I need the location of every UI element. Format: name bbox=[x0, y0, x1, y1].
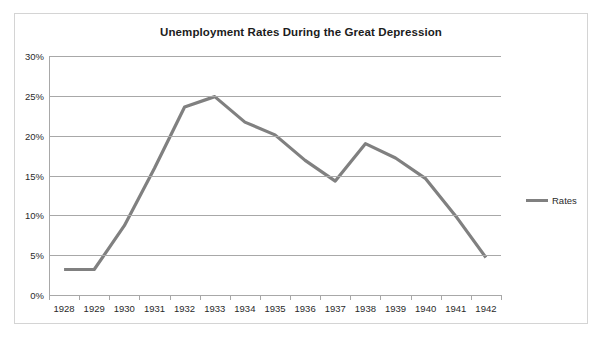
x-axis-tick-label: 1941 bbox=[445, 303, 466, 314]
x-axis-tick bbox=[501, 296, 502, 300]
x-axis-tick bbox=[441, 296, 442, 300]
y-axis-tick-label: 0% bbox=[15, 290, 49, 301]
x-axis-tick bbox=[411, 296, 412, 300]
legend-swatch-rates bbox=[526, 199, 548, 202]
y-axis-tick-label: 15% bbox=[15, 170, 49, 181]
x-axis-tick-label: 1934 bbox=[234, 303, 255, 314]
x-axis-tick bbox=[170, 296, 171, 300]
y-axis-tick-label: 25% bbox=[15, 90, 49, 101]
y-axis-tick-labels: 30%25%20%15%10%5%0% bbox=[15, 56, 49, 295]
x-axis-tick-label: 1936 bbox=[295, 303, 316, 314]
x-axis-tick bbox=[290, 296, 291, 300]
x-axis-tick bbox=[260, 296, 261, 300]
y-axis-tick-label: 20% bbox=[15, 130, 49, 141]
x-axis-tick-label: 1932 bbox=[174, 303, 195, 314]
x-axis-tick bbox=[109, 296, 110, 300]
x-axis-line bbox=[49, 295, 502, 296]
x-axis-tick-label: 1940 bbox=[415, 303, 436, 314]
x-axis-tick bbox=[471, 296, 472, 300]
x-axis-tick bbox=[320, 296, 321, 300]
gridline bbox=[49, 215, 501, 216]
x-axis-tick bbox=[49, 296, 50, 300]
x-axis-tick-label: 1942 bbox=[475, 303, 496, 314]
plot-area bbox=[49, 56, 501, 295]
gridline bbox=[49, 136, 501, 137]
x-axis-tick-label: 1930 bbox=[114, 303, 135, 314]
gridline bbox=[49, 56, 501, 57]
gridline bbox=[49, 96, 501, 97]
x-axis-tick-label: 1939 bbox=[385, 303, 406, 314]
x-axis-tick-label: 1938 bbox=[355, 303, 376, 314]
chart-title: Unemployment Rates During the Great Depr… bbox=[15, 26, 587, 38]
x-axis-tick-label: 1928 bbox=[53, 303, 74, 314]
x-axis-tick-label: 1931 bbox=[144, 303, 165, 314]
x-axis-tick-label: 1937 bbox=[325, 303, 346, 314]
gridline bbox=[49, 176, 501, 177]
legend-label-rates: Rates bbox=[552, 195, 577, 206]
x-axis-tick bbox=[139, 296, 140, 300]
y-axis-tick-label: 10% bbox=[15, 210, 49, 221]
x-axis-tick bbox=[200, 296, 201, 300]
chart-container: Unemployment Rates During the Great Depr… bbox=[14, 13, 588, 324]
x-axis-tick bbox=[350, 296, 351, 300]
x-axis-tick-label: 1929 bbox=[84, 303, 105, 314]
x-axis-tick-label: 1935 bbox=[264, 303, 285, 314]
y-axis-tick-label: 30% bbox=[15, 51, 49, 62]
y-axis-tick-label: 5% bbox=[15, 250, 49, 261]
x-axis-tick bbox=[79, 296, 80, 300]
legend: Rates bbox=[526, 195, 577, 206]
x-axis-tick bbox=[230, 296, 231, 300]
x-axis-tick bbox=[380, 296, 381, 300]
x-axis-tick-label: 1933 bbox=[204, 303, 225, 314]
gridline bbox=[49, 255, 501, 256]
